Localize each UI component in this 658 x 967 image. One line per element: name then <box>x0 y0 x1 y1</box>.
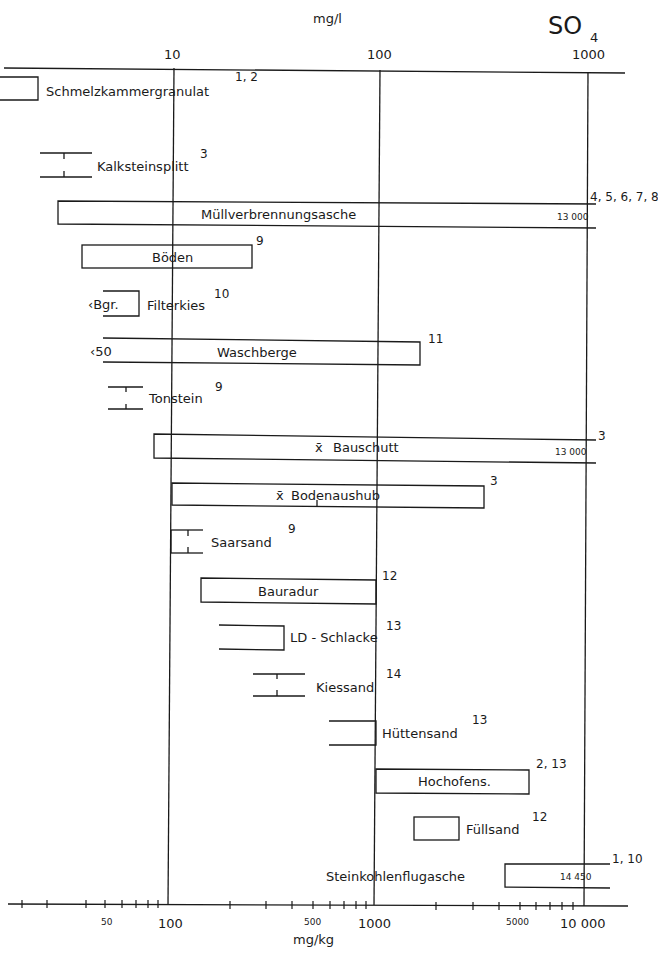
label-steinkohlenflugasche: Steinkohlenflugasche <box>326 869 465 884</box>
ref-fuellsand: 12 <box>532 810 547 824</box>
mean-symbol-bodenaushub: x̄ <box>276 488 284 503</box>
bar-tonstein <box>108 387 143 409</box>
ref-saarsand: 9 <box>288 522 296 536</box>
lower-bound-waschberge: ‹50 <box>90 344 112 359</box>
ref-kalksteinsplitt: 3 <box>200 147 208 161</box>
top-tick-1000: 1000 <box>572 47 605 62</box>
ref-bodenaushub: 3 <box>490 474 498 488</box>
ref-hochofens: 2, 13 <box>536 757 567 771</box>
ref-steinkohlenflugasche: 1, 10 <box>612 852 643 866</box>
chart-title: SO <box>548 12 582 40</box>
label-hochofens: Hochofens. <box>418 774 491 789</box>
chart-title-subscript: 4 <box>590 30 598 45</box>
ref-muellverbrennungsasche: 4, 5, 6, 7, 8 <box>590 190 658 204</box>
ref-huettensand: 13 <box>472 713 487 727</box>
bar-saarsand <box>171 530 203 553</box>
bottom-tick-5000: 5000 <box>506 917 529 927</box>
bottom-tick-50: 50 <box>101 917 113 927</box>
lower-bound-filterkies: ‹Bgr. <box>88 297 119 312</box>
ref-schmelzkammergranulat: 1, 2 <box>235 70 258 84</box>
label-kiessand: Kiessand <box>316 680 374 695</box>
value-muellverbrennungsasche: 13 000 <box>557 212 589 222</box>
gridline-10000 <box>584 72 588 906</box>
so4-range-chart: mg/l SO 4 10 100 1000 50 100 500 1000 50… <box>0 0 658 967</box>
label-ld-schlacke: LD - Schlacke <box>290 630 378 645</box>
label-schmelzkammergranulat: Schmelzkammergranulat <box>46 84 209 99</box>
label-tonstein: Tonstein <box>148 391 203 406</box>
bottom-tick-1000: 1000 <box>358 916 391 931</box>
ref-boeden: 9 <box>256 234 264 248</box>
bar-schmelzkammergranulat <box>0 77 38 100</box>
bar-ld-schlacke <box>219 625 284 650</box>
label-bodenaushub: Bodenaushub <box>291 488 380 503</box>
bottom-axis-line <box>8 904 628 906</box>
ref-bauschutt: 3 <box>598 429 606 443</box>
top-tick-100: 100 <box>367 47 392 62</box>
label-filterkies: Filterkies <box>147 298 205 313</box>
label-bauradur: Bauradur <box>258 584 319 599</box>
bar-fuellsand <box>414 817 459 840</box>
ref-ld-schlacke: 13 <box>386 619 401 633</box>
ref-bauradur: 12 <box>382 569 397 583</box>
bar-huettensand <box>329 721 376 745</box>
value-steinkohlenflugasche: 14 450 <box>560 872 592 882</box>
bottom-tick-500: 500 <box>304 917 321 927</box>
label-huettensand: Hüttensand <box>382 726 458 741</box>
bottom-axis-unit: mg/kg <box>293 932 334 947</box>
label-waschberge: Waschberge <box>217 345 297 360</box>
mean-symbol-bauschutt: x̄ <box>315 440 323 455</box>
bar-kiessand <box>253 674 305 696</box>
top-axis-line <box>4 68 625 73</box>
ref-filterkies: 10 <box>214 287 229 301</box>
gridline-100 <box>168 68 174 905</box>
bottom-tick-100: 100 <box>158 916 183 931</box>
top-tick-10: 10 <box>164 47 181 62</box>
top-axis-unit: mg/l <box>313 11 342 26</box>
label-saarsand: Saarsand <box>211 535 272 550</box>
label-boeden: Böden <box>152 250 193 265</box>
ref-waschberge: 11 <box>428 332 443 346</box>
bar-kalksteinsplitt <box>40 153 92 177</box>
label-kalksteinsplitt: Kalksteinsplitt <box>97 159 189 174</box>
ref-kiessand: 14 <box>386 667 401 681</box>
ref-tonstein: 9 <box>215 380 223 394</box>
label-fuellsand: Füllsand <box>466 822 519 837</box>
label-bauschutt: Bauschutt <box>333 440 399 455</box>
value-bauschutt: 13 000 <box>555 447 587 457</box>
label-muellverbrennungsasche: Müllverbrennungsasche <box>201 207 356 222</box>
bottom-tick-10000: 10 000 <box>560 916 606 931</box>
bar-steinkohlenflugasche <box>505 864 610 888</box>
